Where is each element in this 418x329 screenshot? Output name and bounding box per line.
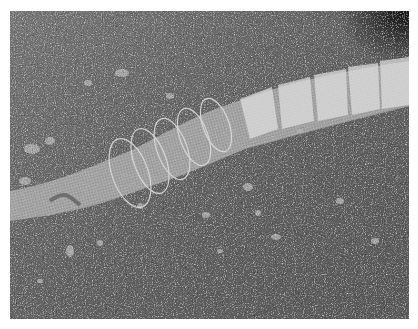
photograph (10, 11, 409, 319)
fish-trap-photo (10, 11, 409, 319)
gravel-ground (10, 11, 409, 319)
